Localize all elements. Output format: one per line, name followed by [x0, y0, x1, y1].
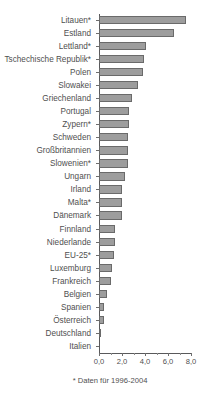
bar: [99, 146, 128, 154]
category-label: Großbritannien: [0, 144, 95, 157]
bar: [99, 198, 122, 206]
category-label: Frankreich: [0, 275, 95, 288]
value-minor-tick-mark: [111, 353, 112, 355]
category-label: Ungarn: [0, 170, 95, 183]
bar-row: [99, 157, 191, 170]
category-label: Slowenien*: [0, 157, 95, 170]
value-minor-tick-mark: [180, 353, 181, 355]
bar-row: [99, 275, 191, 288]
chart-footnote: * Daten für 1996-2004: [0, 376, 202, 385]
bar: [99, 303, 104, 311]
value-minor-tick-mark: [157, 353, 158, 355]
bar: [99, 316, 104, 324]
value-tick-mark: [145, 353, 146, 356]
plot-area: [99, 14, 191, 353]
bar: [99, 94, 132, 102]
bar-row: [99, 92, 191, 105]
category-label: Estland: [0, 27, 95, 40]
bar-chart: Litauen*EstlandLettland*Tschechische Rep…: [0, 0, 202, 398]
category-axis-labels: Litauen*EstlandLettland*Tschechische Rep…: [0, 14, 95, 353]
bar-row: [99, 340, 191, 353]
bar: [99, 68, 143, 76]
bar-row: [99, 314, 191, 327]
value-tick-mark: [99, 353, 100, 356]
category-label: Niederlande: [0, 236, 95, 249]
bar-row: [99, 14, 191, 27]
chart-footnote-text: * Daten für 1996-2004: [55, 376, 148, 385]
bar-row: [99, 288, 191, 301]
category-label: Deutschland: [0, 327, 95, 340]
bar: [99, 120, 129, 128]
value-tick-label: 2,0: [117, 357, 128, 366]
bar-row: [99, 118, 191, 131]
category-label: Tschechische Republik*: [0, 53, 95, 66]
bar-row: [99, 79, 191, 92]
category-label: Italien: [0, 340, 95, 353]
category-label: Griechenland: [0, 92, 95, 105]
category-label: Malta*: [0, 196, 95, 209]
value-tick-label: 6,0: [163, 357, 174, 366]
category-label: Belgien: [0, 288, 95, 301]
value-minor-tick-mark: [134, 353, 135, 355]
category-label: Portugal: [0, 105, 95, 118]
category-label: Irland: [0, 183, 95, 196]
category-label: Finnland: [0, 223, 95, 236]
bar: [99, 225, 115, 233]
bar: [99, 238, 115, 246]
bar-row: [99, 196, 191, 209]
value-tick-mark: [168, 353, 169, 356]
category-label: Dänemark: [0, 209, 95, 222]
bar-row: [99, 170, 191, 183]
value-tick-label: 4,0: [140, 357, 151, 366]
bar-row: [99, 27, 191, 40]
bar: [99, 107, 129, 115]
bar-row: [99, 262, 191, 275]
value-tick-label: 8,0: [186, 357, 197, 366]
value-tick-mark: [122, 353, 123, 356]
category-label: Luxemburg: [0, 262, 95, 275]
bar: [99, 185, 122, 193]
bar-row: [99, 223, 191, 236]
category-label: Zypern*: [0, 118, 95, 131]
bar-row: [99, 105, 191, 118]
bar-row: [99, 144, 191, 157]
category-label: Slowakei: [0, 79, 95, 92]
bar: [99, 29, 174, 37]
category-label: Polen: [0, 66, 95, 79]
bar: [99, 211, 122, 219]
bar: [99, 81, 138, 89]
bar: [99, 329, 101, 337]
bar: [99, 251, 114, 259]
bar-row: [99, 236, 191, 249]
category-label: Litauen*: [0, 14, 95, 27]
bar: [99, 290, 107, 298]
bar-row: [99, 53, 191, 66]
bar-row: [99, 327, 191, 340]
category-label: Österreich: [0, 314, 95, 327]
bar-row: [99, 66, 191, 79]
category-label: Schweden: [0, 131, 95, 144]
bar-series: [99, 14, 191, 353]
bar: [99, 42, 146, 50]
value-tick-mark: [191, 353, 192, 356]
bar-row: [99, 249, 191, 262]
bar: [99, 55, 144, 63]
bar: [99, 16, 186, 24]
bar: [99, 172, 125, 180]
bar: [99, 277, 111, 285]
category-label: EU-25*: [0, 249, 95, 262]
bar-row: [99, 40, 191, 53]
bar-row: [99, 301, 191, 314]
value-tick-label: 0,0: [94, 357, 105, 366]
bar-row: [99, 131, 191, 144]
bar-row: [99, 209, 191, 222]
bar: [99, 133, 128, 141]
bar: [99, 159, 128, 167]
bar-row: [99, 183, 191, 196]
bar: [99, 264, 112, 272]
category-label: Spanien: [0, 301, 95, 314]
category-label: Lettland*: [0, 40, 95, 53]
